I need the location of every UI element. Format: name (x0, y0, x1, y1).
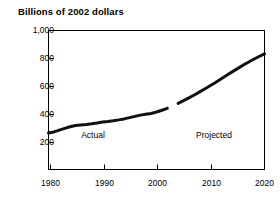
y-axis-ticks (49, 59, 54, 143)
series-line-projected (178, 54, 264, 104)
y-tick-label-400: 400 (40, 109, 54, 119)
chart-figure: Billions of 2002 dollars 1,000 800 600 (0, 0, 280, 202)
y-tick-label-200: 200 (40, 137, 54, 147)
annotation-actual: Actual (68, 130, 118, 140)
annotation-projected: Projected (185, 130, 243, 140)
x-tick-label-1980: 1980 (36, 178, 65, 188)
y-tick-label-1000: 1,000 (33, 25, 54, 35)
x-tick-label-1990: 1990 (90, 178, 119, 188)
x-tick-label-2000: 2000 (143, 178, 172, 188)
y-tick-label-600: 600 (40, 81, 54, 91)
x-tick-label-2020: 2020 (250, 178, 279, 188)
y-tick-label-800: 800 (40, 53, 54, 63)
axis-frame (48, 30, 265, 170)
data-series-group (49, 54, 265, 133)
x-tick-label-2010: 2010 (197, 178, 226, 188)
